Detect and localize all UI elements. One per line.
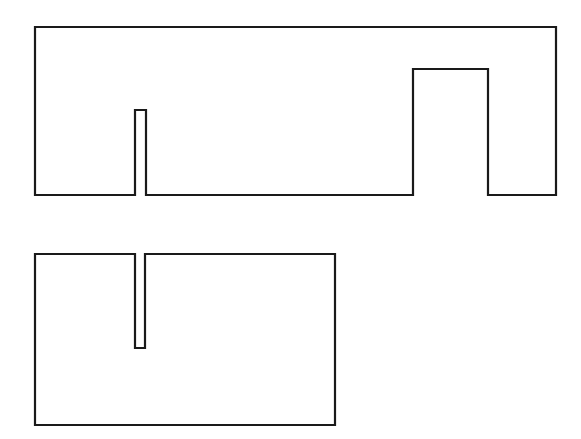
- bottom-shape: [35, 254, 335, 425]
- diagram-canvas: [0, 0, 581, 439]
- top-shape: [35, 27, 556, 195]
